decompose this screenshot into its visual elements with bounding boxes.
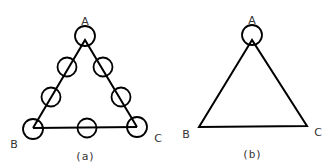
triangle-base-a bbox=[33, 127, 137, 128]
caption-a: (a) bbox=[75, 150, 95, 163]
circle-vertex-b bbox=[23, 119, 43, 139]
diagram-canvas: A B C (a) A B C (b) bbox=[0, 0, 330, 168]
vertex-label-a: A bbox=[81, 15, 89, 28]
vertex-label-c: C bbox=[154, 132, 162, 145]
circle-vertex-a bbox=[242, 25, 262, 45]
circle-vertex-a bbox=[75, 26, 95, 46]
vertex-label-a: A bbox=[248, 14, 256, 27]
circle-ac-2 bbox=[112, 88, 131, 107]
figure-b: A B C (b) bbox=[182, 14, 322, 161]
vertex-label-b: B bbox=[10, 138, 18, 151]
triangle-b bbox=[199, 40, 307, 127]
figure-a: A B C (a) bbox=[10, 15, 162, 163]
circle-ab-1 bbox=[58, 58, 77, 77]
vertex-label-c: C bbox=[314, 126, 322, 139]
triangle-sides-a bbox=[33, 40, 137, 128]
caption-b: (b) bbox=[242, 148, 262, 161]
vertex-label-b: B bbox=[182, 128, 190, 141]
circle-ac-1 bbox=[94, 58, 113, 77]
